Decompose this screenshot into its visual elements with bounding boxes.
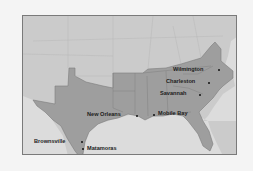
map-frame: Wilmington Charleston Savannah New Orlea… [22, 15, 237, 155]
label-brownsville: Brownsville [34, 139, 65, 145]
label-matamoras: Matamoras [87, 146, 117, 152]
label-new-orleans: New Orleans [87, 112, 121, 118]
map-svg [23, 16, 237, 155]
label-charleston: Charleston [166, 79, 195, 85]
label-wilmington: Wilmington [173, 67, 203, 73]
label-savannah: Savannah [160, 91, 186, 97]
label-mobile-bay: Mobile Bay [158, 111, 188, 117]
